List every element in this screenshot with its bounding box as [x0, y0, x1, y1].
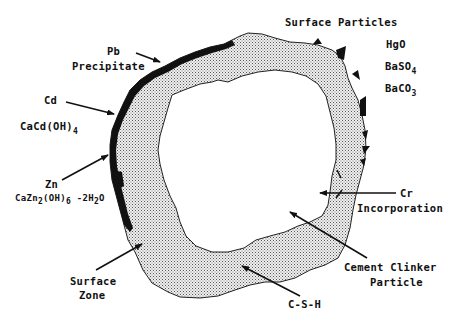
label-particle: Particle [370, 276, 423, 288]
label-cr: Cr [400, 187, 413, 199]
label-surface: Surface [70, 275, 116, 287]
arrow-surface-zone [96, 244, 142, 270]
label-incorporation: Incorporation [357, 202, 443, 214]
label-baco3: BaCO3 [385, 82, 417, 98]
label-baso4: BaSO4 [385, 60, 417, 76]
surface-zone-ring [110, 33, 366, 298]
cement-clinker-diagram: Surface Particles HgO BaSO4 BaCO3 Pb Pre… [0, 0, 460, 323]
arrow-cd [66, 102, 114, 114]
label-zn: Zn [45, 178, 58, 190]
label-hgo: HgO [386, 38, 406, 50]
label-zone: Zone [79, 289, 106, 301]
label-pb: Pb [107, 45, 120, 57]
label-precipitate: Precipitate [72, 60, 145, 72]
label-cement-clinker: Cement Clinker [344, 261, 437, 273]
arrow-zn [62, 155, 108, 180]
label-surface-particles: Surface Particles [285, 16, 398, 28]
label-cd: Cd [44, 94, 57, 106]
label-cacdoh4: CaCd(OH)4 [20, 120, 78, 136]
label-zn-formula: CaZn2(OH)6 -2H2O [15, 193, 105, 206]
label-csh: C-S-H [288, 298, 321, 310]
